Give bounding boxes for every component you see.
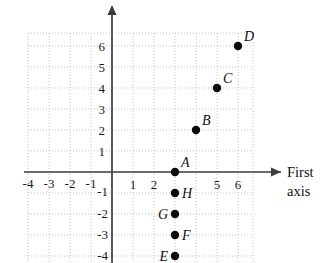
y-tick-label: 6 (99, 39, 106, 54)
y-tick-label: 3 (99, 102, 106, 117)
point-label-e: E (158, 249, 168, 263)
x-tick-label: -4 (23, 176, 34, 191)
point-label-g: G (158, 207, 168, 222)
point-label-b: B (202, 113, 211, 128)
x-axis-caption-line1: First (287, 164, 314, 180)
axes (24, 5, 281, 263)
y-tick-label: 2 (99, 123, 106, 138)
data-point (171, 189, 179, 197)
data-point (171, 168, 179, 176)
x-axis-caption: First axis (287, 164, 314, 199)
point-label-a: A (180, 155, 190, 170)
x-tick-label: -2 (65, 176, 76, 191)
x-tick-label: -1 (86, 176, 97, 191)
x-axis-tick-labels: -4 -3 -2 -1 1 2 5 6 (23, 176, 242, 192)
y-tick-label: 4 (99, 81, 106, 96)
x-axis-arrowhead (271, 168, 281, 177)
y-tick-label: -2 (97, 206, 108, 221)
data-point (234, 42, 242, 50)
scatter-plot-svg: -4 -3 -2 -1 1 2 5 6 6 5 4 3 2 1 -1 -2 -3… (0, 0, 323, 263)
data-point (171, 252, 179, 260)
x-tick-label: 2 (151, 177, 158, 192)
point-label-f: F (181, 228, 191, 243)
point-label-d: D (243, 29, 254, 44)
y-tick-label: 5 (99, 60, 106, 75)
coordinate-plane-figure: -4 -3 -2 -1 1 2 5 6 6 5 4 3 2 1 -1 -2 -3… (0, 0, 323, 263)
y-tick-label: -1 (97, 184, 108, 199)
data-point (171, 210, 179, 218)
point-label-h: H (181, 186, 193, 201)
y-tick-label: 1 (99, 144, 106, 159)
x-tick-label: 6 (235, 177, 242, 192)
point-labels: A B C D E F G H (158, 29, 254, 263)
data-point (192, 126, 200, 134)
data-point (171, 231, 179, 239)
grid-lines (28, 33, 253, 263)
y-axis-arrowhead (108, 5, 117, 15)
y-tick-label: -3 (97, 227, 108, 242)
x-tick-label: -3 (44, 176, 55, 191)
x-tick-label: 5 (214, 177, 221, 192)
x-axis-caption-line2: axis (287, 183, 311, 199)
data-point (213, 84, 221, 92)
x-tick-label: 1 (130, 177, 137, 192)
y-tick-label: -4 (97, 248, 108, 263)
point-label-c: C (223, 71, 233, 86)
